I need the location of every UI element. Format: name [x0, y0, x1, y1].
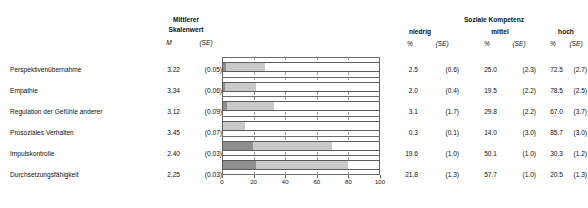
cell-mittel-pct-4: 50.1 — [484, 150, 497, 157]
bar-segment-mittel — [256, 160, 347, 170]
x-tick-label-40: 40 — [282, 179, 289, 185]
header-level-hoch: hoch — [558, 28, 574, 35]
header-niedrig-pct: % — [407, 40, 413, 47]
bar-row — [222, 141, 380, 151]
bar-segment-mittel — [223, 121, 245, 131]
bar-segment-hoch — [274, 101, 380, 111]
row-separator-3 — [222, 116, 380, 117]
bar-segment-mittel — [253, 141, 332, 151]
figure-root: Mittlerer Skalenwert M (SE) Soziale Komp… — [0, 0, 588, 208]
cell-hoch-se-2: (3.7) — [573, 108, 587, 115]
x-tick-label-100: 100 — [375, 179, 385, 185]
row-separator-5 — [222, 155, 380, 156]
row-separator-1 — [222, 77, 380, 78]
cell-mean-2: 3.12 — [167, 108, 180, 115]
x-tick-80 — [348, 175, 349, 178]
x-tick-20 — [254, 175, 255, 178]
header-level-mittel: mittel — [491, 28, 509, 35]
cell-hoch-se-0: (2.7) — [573, 66, 587, 73]
cell-mittel-pct-5: 57.7 — [484, 171, 497, 178]
cell-mittel-pct-0: 25.0 — [484, 66, 497, 73]
header-mean-symbol: M — [166, 39, 172, 46]
row-label-empathie: Empathie — [10, 87, 38, 94]
cell-hoch-se-3: (3.0) — [573, 129, 587, 136]
bar-segment-niedrig — [222, 160, 256, 170]
x-tick-label-80: 80 — [345, 179, 352, 185]
cell-niedrig-pct-4: 19.6 — [405, 150, 418, 157]
cell-mittel-pct-3: 14.0 — [484, 129, 497, 136]
cell-mean-se-1: (0.06) — [205, 87, 222, 94]
row-label-perspektivenuebernahme: Perspektivenübernahme — [10, 66, 81, 73]
row-label-prosoziales-verhalten: Prosoziales Verhalten — [10, 129, 74, 136]
bar-row — [222, 121, 380, 131]
row-label-durchsetzungsfaehigkeit: Durchsetzungsfähigkeit — [10, 171, 79, 178]
cell-mean-3: 3.45 — [167, 129, 180, 136]
cell-mittel-se-3: (3.0) — [522, 129, 536, 136]
header-niedrig-se: (SE) — [435, 40, 448, 47]
bar-segment-hoch — [348, 160, 380, 170]
cell-hoch-se-1: (2.5) — [573, 87, 587, 94]
x-tick-100 — [380, 175, 381, 178]
cell-hoch-pct-3: 85.7 — [550, 129, 563, 136]
cell-mean-5: 2.25 — [167, 171, 180, 178]
x-tick-0 — [222, 175, 223, 178]
x-tick-label-20: 20 — [250, 179, 257, 185]
cell-niedrig-se-2: (1.7) — [445, 108, 459, 115]
bar-row — [222, 62, 380, 72]
cell-niedrig-se-4: (1.0) — [445, 150, 459, 157]
cell-mean-se-0: (0.05) — [205, 66, 222, 73]
cell-hoch-pct-1: 78.5 — [550, 87, 563, 94]
bar-row — [222, 101, 380, 111]
chart-x-axis: 020406080100 — [222, 175, 380, 191]
cell-hoch-pct-5: 20.5 — [550, 171, 563, 178]
cell-niedrig-se-3: (0.1) — [445, 129, 459, 136]
stacked-bar-chart — [222, 57, 380, 175]
cell-mean-se-4: (0.03) — [205, 150, 222, 157]
cell-niedrig-pct-0: 2.5 — [409, 66, 418, 73]
cell-mittel-se-5: (1.0) — [522, 171, 536, 178]
cell-niedrig-se-1: (0.4) — [445, 87, 459, 94]
header-mean-line1: Mittlerer — [173, 16, 199, 23]
cell-mittel-se-4: (1.0) — [522, 150, 536, 157]
header-mean-se-symbol: (SE) — [199, 39, 212, 46]
bar-row — [222, 82, 380, 92]
bar-segment-niedrig — [222, 141, 253, 151]
header-mean-line2: Skalenwert — [169, 26, 204, 33]
cell-niedrig-pct-2: 3.1 — [409, 108, 418, 115]
row-label-impulskontrolle: Impulskontrolle — [10, 150, 54, 157]
cell-niedrig-pct-3: 0.3 — [409, 129, 418, 136]
cell-hoch-se-4: (1.2) — [573, 150, 587, 157]
cell-mittel-se-0: (2.3) — [522, 66, 536, 73]
row-label-regulation-gefuehle-anderer: Regulation der Gefühle anderer — [10, 108, 102, 115]
cell-niedrig-se-5: (1.3) — [445, 171, 459, 178]
cell-hoch-pct-0: 72.5 — [550, 66, 563, 73]
cell-mittel-se-1: (2.2) — [522, 87, 536, 94]
bar-segment-mittel — [226, 62, 266, 72]
cell-hoch-pct-2: 67.0 — [550, 108, 563, 115]
cell-mean-se-5: (0.03) — [205, 171, 222, 178]
cell-mittel-pct-2: 29.8 — [484, 108, 497, 115]
row-separator-4 — [222, 136, 380, 137]
x-tick-label-0: 0 — [220, 179, 223, 185]
header-hoch-pct: % — [550, 40, 556, 47]
cell-niedrig-pct-5: 21.8 — [405, 171, 418, 178]
bar-segment-hoch — [332, 141, 380, 151]
cell-mean-1: 3.34 — [167, 87, 180, 94]
bar-segment-hoch — [256, 82, 380, 92]
cell-mean-se-2: (0.09) — [205, 108, 222, 115]
bar-segment-hoch — [265, 62, 380, 72]
cell-niedrig-se-0: (0.6) — [445, 66, 459, 73]
bar-segment-hoch — [245, 121, 380, 131]
header-mittel-pct: % — [484, 40, 490, 47]
x-tick-label-60: 60 — [313, 179, 320, 185]
header-mittel-se: (SE) — [512, 40, 525, 47]
x-tick-40 — [285, 175, 286, 178]
cell-mean-se-3: (0.07) — [205, 129, 222, 136]
cell-hoch-pct-4: 30.3 — [550, 150, 563, 157]
header-soziale-kompetenz: Soziale Kompetenz — [464, 16, 524, 23]
header-hoch-se: (SE) — [569, 40, 582, 47]
x-tick-60 — [317, 175, 318, 178]
row-separator-2 — [222, 96, 380, 97]
header-level-niedrig: niedrig — [409, 28, 431, 35]
cell-mean-0: 3.22 — [167, 66, 180, 73]
